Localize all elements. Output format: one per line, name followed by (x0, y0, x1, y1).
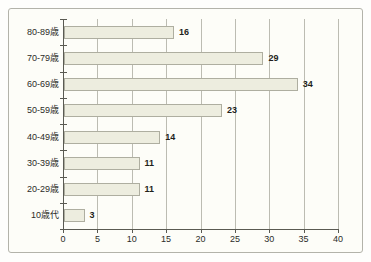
bar (64, 104, 222, 117)
gridline (338, 19, 339, 229)
x-axis-tick (97, 229, 98, 233)
x-axis-tick-label: 10 (120, 234, 144, 245)
x-axis-tick (235, 229, 236, 233)
y-axis-tick (60, 72, 67, 73)
gridline (269, 19, 270, 229)
bar-value-label: 11 (145, 157, 155, 170)
x-axis-tick-label: 35 (292, 234, 316, 245)
bar (64, 183, 140, 196)
y-axis-category-label: 60-69歳 (15, 78, 59, 91)
gridline (235, 19, 236, 229)
y-axis-tick (60, 203, 67, 204)
bar (64, 131, 160, 144)
x-axis-tick-label: 40 (326, 234, 350, 245)
y-axis-tick (60, 177, 67, 178)
y-axis-category-label: 80-89歳 (15, 26, 59, 39)
bar (64, 157, 140, 170)
x-axis-tick-label: 0 (51, 234, 75, 245)
gridline (132, 19, 133, 229)
chart-page: 162934231411113 80-89歳70-79歳60-69歳50-59歳… (0, 0, 371, 262)
y-axis-tick (60, 150, 67, 151)
x-axis-tick-label: 20 (189, 234, 213, 245)
y-axis-category-label: 30-39歳 (15, 157, 59, 170)
x-axis-tick (63, 229, 64, 233)
y-axis-tick (60, 124, 67, 125)
x-axis-tick (201, 229, 202, 233)
bar (64, 209, 85, 222)
bar-value-label: 29 (268, 52, 278, 65)
x-axis-tick (132, 229, 133, 233)
bar-value-label: 14 (165, 131, 175, 144)
x-axis-tick (304, 229, 305, 233)
bar (64, 26, 174, 39)
plot-area: 162934231411113 (63, 19, 338, 229)
bar-value-label: 23 (227, 104, 237, 117)
y-axis-category-label: 70-79歳 (15, 52, 59, 65)
x-axis-tick (338, 229, 339, 233)
x-axis-tick (166, 229, 167, 233)
bar (64, 78, 298, 91)
y-axis-category-label: 20-29歳 (15, 183, 59, 196)
y-axis-category-label: 10歳代 (15, 209, 59, 222)
bar-value-label: 3 (90, 209, 95, 222)
bar-value-label: 11 (145, 183, 155, 196)
x-axis-tick-label: 5 (85, 234, 109, 245)
y-axis-tick (60, 98, 67, 99)
bar-value-label: 16 (179, 26, 189, 39)
gridline (166, 19, 167, 229)
y-axis-tick (60, 45, 67, 46)
gridline (97, 19, 98, 229)
bar (64, 52, 263, 65)
x-axis-tick-label: 15 (154, 234, 178, 245)
bar-value-label: 34 (303, 78, 313, 91)
y-axis-category-label: 50-59歳 (15, 104, 59, 117)
gridline (304, 19, 305, 229)
x-axis-tick-label: 30 (257, 234, 281, 245)
y-axis-tick (60, 19, 67, 20)
chart-card: 162934231411113 80-89歳70-79歳60-69歳50-59歳… (8, 8, 363, 253)
x-axis-tick (269, 229, 270, 233)
gridline (201, 19, 202, 229)
x-axis-tick-label: 25 (223, 234, 247, 245)
y-axis-category-label: 40-49歳 (15, 131, 59, 144)
